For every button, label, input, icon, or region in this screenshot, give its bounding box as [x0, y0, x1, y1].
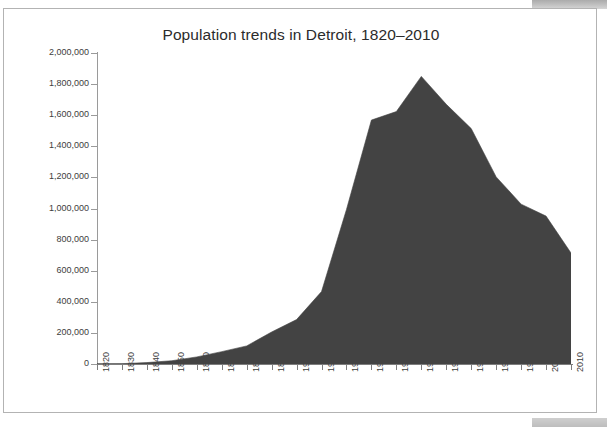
population-area-series [97, 53, 571, 364]
y-axis-tick-label: 600,000 [11, 265, 89, 275]
plot-area [97, 53, 571, 364]
x-axis-tick [371, 365, 372, 370]
x-axis-tick [496, 365, 497, 370]
window-chrome-bottom [532, 418, 607, 427]
chart-figure-frame: Population trends in Detroit, 1820–2010 … [3, 8, 597, 413]
chart-title: Population trends in Detroit, 1820–2010 [4, 26, 598, 44]
x-axis-tick [122, 365, 123, 370]
x-axis-tick [546, 365, 547, 370]
x-axis-tick [297, 365, 298, 370]
y-axis-tick-label: 400,000 [11, 296, 89, 306]
population-area-path [97, 76, 571, 364]
page-root: Population trends in Detroit, 1820–2010 … [0, 0, 607, 427]
y-axis-tick-label: 1,800,000 [11, 78, 89, 88]
y-axis-tick-label: 1,600,000 [11, 109, 89, 119]
y-axis-tick-label: 800,000 [11, 234, 89, 244]
y-axis-tick-label: 1,400,000 [11, 140, 89, 150]
x-axis-tick [346, 365, 347, 370]
x-axis-tick [172, 365, 173, 370]
x-axis-tick [247, 365, 248, 370]
x-axis-tick [521, 365, 522, 370]
x-axis-tick [222, 365, 223, 370]
x-axis-tick [571, 365, 572, 370]
y-axis-tick-label: 1,200,000 [11, 171, 89, 181]
x-axis-tick [446, 365, 447, 370]
y-axis-tick-label: 200,000 [11, 327, 89, 337]
x-axis-tick [396, 365, 397, 370]
x-axis-tick [322, 365, 323, 370]
x-axis-tick [97, 365, 98, 370]
x-axis-tick [197, 365, 198, 370]
y-axis-tick-label: 1,000,000 [11, 203, 89, 213]
x-axis-tick [421, 365, 422, 370]
y-axis-labels: 0200,000400,000600,000800,0001,000,0001,… [9, 9, 89, 414]
x-axis-tick [147, 365, 148, 370]
x-axis-tick-label: 2010 [575, 352, 585, 372]
x-axis-tick [471, 365, 472, 370]
y-axis-tick-label: 2,000,000 [11, 47, 89, 57]
x-axis-tick [272, 365, 273, 370]
y-axis-tick-label: 0 [11, 358, 89, 368]
